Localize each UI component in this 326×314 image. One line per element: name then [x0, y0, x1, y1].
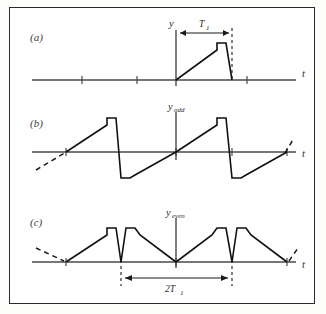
panel-c-dashed-left [36, 248, 64, 261]
panel-a-dim-subscript: 1 [206, 24, 210, 32]
panel-c-dim-label: 2T [165, 284, 176, 294]
panel-c-label: (c) [30, 216, 43, 229]
panel-b-dashed-right [285, 138, 294, 153]
panel-a-y-label: y [168, 18, 174, 29]
panel-b-dashed-left [36, 151, 68, 170]
panel-b-y-label: y [167, 101, 173, 112]
panel-a-dim-label: T [199, 19, 205, 29]
panel-c-y-subscript: even [172, 212, 185, 220]
panel-a-waveform [176, 43, 232, 80]
panel-c-t-label: t [302, 259, 306, 270]
panel-a-t-label: t [302, 68, 306, 79]
panel-c-dim-subscript: 1 [180, 289, 184, 297]
panel-b: (b) t y odd [10, 100, 316, 204]
panel-a-arrow-left [180, 30, 186, 36]
panel-a: (a) t y T 1 [10, 8, 316, 100]
panel-a-label: (a) [30, 31, 43, 44]
panel-b-waveform-left [66, 118, 176, 178]
panel-c-waveform-right [176, 228, 287, 262]
panel-b-t-label: t [302, 148, 306, 159]
panel-c-arrow-left [125, 275, 132, 281]
panel-a-arrow-right [223, 30, 229, 36]
panel-c-y-label: y [165, 207, 171, 218]
panel-c-arrow-right [221, 275, 228, 281]
panel-b-label: (b) [30, 117, 43, 130]
figure-frame: (a) t y T 1 (b) t y o [9, 7, 315, 304]
panel-b-y-subscript: odd [174, 106, 185, 114]
panel-c-dashed-right [289, 248, 298, 261]
panel-c-waveform-left [66, 228, 176, 262]
panel-c: (c) t y even 2T 1 [10, 204, 316, 305]
